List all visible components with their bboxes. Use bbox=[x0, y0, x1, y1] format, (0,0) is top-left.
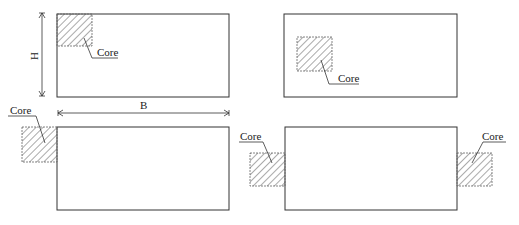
building-outline bbox=[285, 127, 457, 210]
core-hatched-area bbox=[22, 127, 57, 162]
core-label: Core bbox=[97, 46, 119, 58]
width-dimension: B bbox=[58, 99, 229, 116]
panel-two-side-external-cores: Core Core bbox=[239, 127, 506, 210]
core-label: Core bbox=[338, 72, 360, 84]
panel-external-corner-core: Core bbox=[8, 104, 229, 210]
core-layout-diagram: Core H Core B Core bbox=[0, 0, 519, 225]
height-label: H bbox=[28, 52, 40, 60]
right-core-label: Core bbox=[482, 130, 504, 142]
left-core-label: Core bbox=[240, 130, 262, 142]
panel-corner-core: Core H bbox=[28, 13, 229, 97]
width-label: B bbox=[140, 99, 147, 111]
core-label: Core bbox=[10, 104, 32, 116]
left-core-hatched-area bbox=[250, 153, 285, 186]
panel-interior-core: Core bbox=[284, 14, 457, 97]
building-outline bbox=[57, 127, 229, 210]
core-hatched-area bbox=[57, 14, 92, 46]
core-hatched-area bbox=[297, 37, 332, 71]
height-dimension: H bbox=[28, 13, 45, 96]
